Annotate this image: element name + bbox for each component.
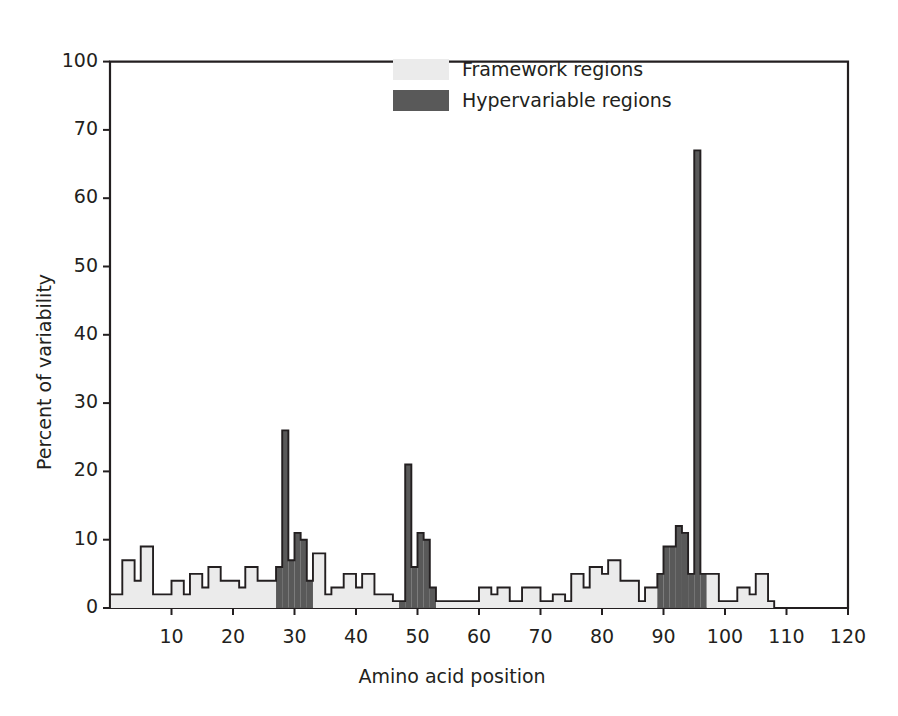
hypervariable-band-base: [276, 607, 313, 608]
legend-swatch-framework: [393, 59, 449, 80]
y-tick-label: 30: [46, 390, 98, 412]
hypervariable-bar: [288, 560, 294, 608]
legend-label-framework: Framework regions: [462, 58, 643, 80]
x-tick-label: 60: [449, 625, 509, 647]
x-tick-label: 40: [326, 625, 386, 647]
y-tick-label: 100: [46, 49, 98, 71]
hypervariable-bar: [411, 567, 417, 608]
y-tick-label: 10: [46, 527, 98, 549]
x-tick-label: 20: [203, 625, 263, 647]
y-tick-label: 40: [46, 322, 98, 344]
hypervariable-bar: [307, 581, 313, 608]
chart-canvas: [0, 0, 898, 716]
hypervariable-bar: [670, 547, 676, 608]
legend-swatch-hypervariable: [393, 90, 449, 111]
x-tick-label: 50: [388, 625, 448, 647]
plot-frame: [110, 62, 848, 608]
x-tick-label: 80: [572, 625, 632, 647]
x-tick-label: 120: [818, 625, 878, 647]
y-tick-label: 60: [46, 185, 98, 207]
axis-ticks: [103, 62, 848, 615]
bars-group: [110, 150, 848, 608]
framework-region-area: [110, 150, 848, 608]
y-tick-label: 70: [46, 117, 98, 139]
x-tick-label: 110: [757, 625, 817, 647]
hypervariable-band-base: [657, 607, 706, 608]
hypervariable-band-base: [399, 607, 436, 608]
y-tick-label: 20: [46, 458, 98, 480]
y-axis-title: Percent of variability: [33, 274, 55, 470]
y-tick-label: 0: [46, 595, 98, 617]
variability-plot: Percent of variability Amino acid positi…: [0, 0, 898, 716]
x-tick-label: 90: [634, 625, 694, 647]
hypervariable-bar: [399, 601, 405, 608]
y-tick-label: 50: [46, 254, 98, 276]
legend-label-hypervariable: Hypervariable regions: [462, 89, 672, 111]
histogram-outline: [110, 150, 848, 608]
x-tick-label: 30: [265, 625, 325, 647]
x-tick-label: 100: [695, 625, 755, 647]
x-axis-title: Amino acid position: [352, 665, 552, 687]
x-tick-label: 10: [142, 625, 202, 647]
hypervariable-bar: [688, 574, 694, 608]
hypervariable-bar: [700, 574, 706, 608]
x-tick-label: 70: [511, 625, 571, 647]
